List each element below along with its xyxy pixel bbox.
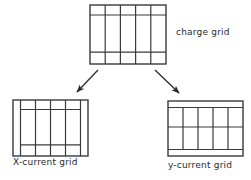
charge-grid-vertical-lines <box>105 5 151 64</box>
charge-grid-border <box>90 5 166 64</box>
x-current-grid <box>13 100 88 156</box>
y-current-grid-horizontal-lines <box>168 108 243 150</box>
y-current-grid-border <box>168 101 243 156</box>
x-current-grid-label: X-current grid <box>13 157 78 167</box>
arrow-to-x-current-grid <box>77 70 98 92</box>
charge-grid <box>90 5 166 64</box>
y-current-grid <box>168 101 243 156</box>
charge-grid-label: charge grid <box>176 27 230 37</box>
arrow-to-y-current-grid <box>155 70 179 93</box>
charge-grid-horizontal-lines <box>90 15 166 52</box>
y-current-grid-vertical-lines <box>183 108 228 150</box>
y-current-grid-label: y-current grid <box>168 160 232 170</box>
x-current-grid-vertical-lines <box>21 100 81 156</box>
